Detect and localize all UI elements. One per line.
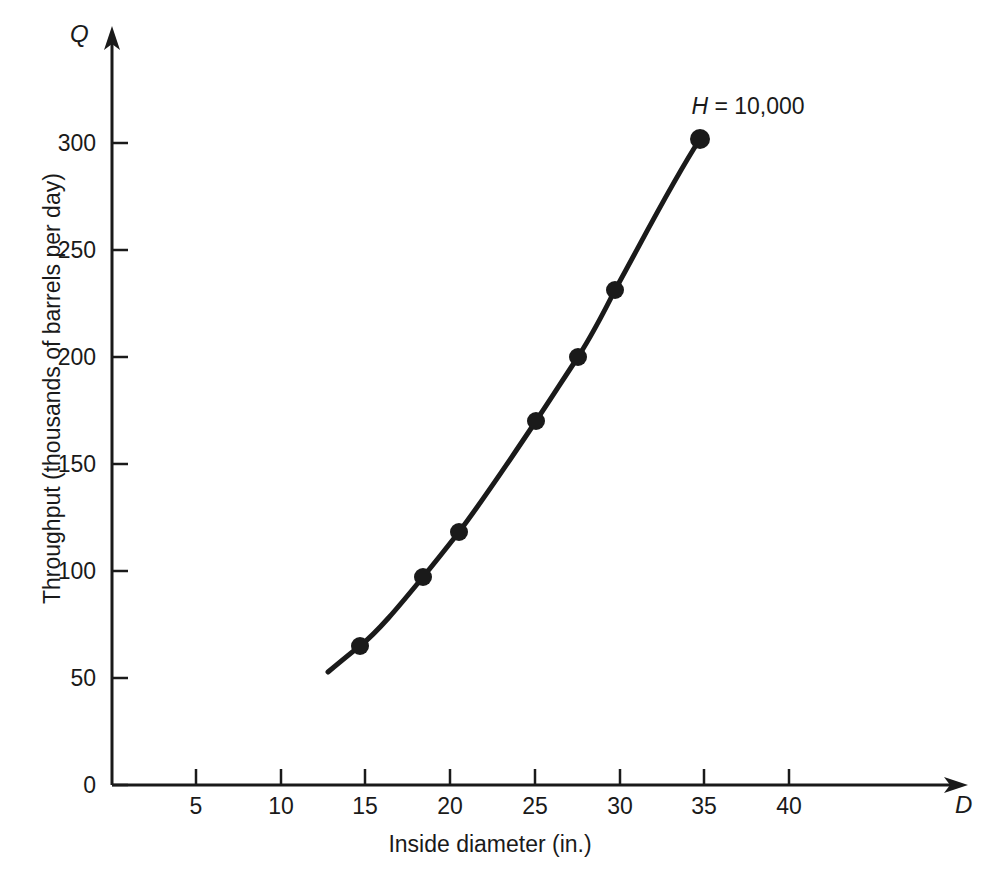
x-tick-label-10: 10	[268, 795, 294, 818]
x-axis-title: Inside diameter (in.)	[388, 833, 591, 856]
data-points	[351, 129, 710, 655]
x-tick-label-35: 35	[691, 795, 717, 818]
curve-annotation: H = 10,000	[691, 95, 804, 118]
y-tick-label-50: 50	[70, 667, 96, 690]
data-point	[351, 637, 369, 655]
annotation-value: 10,000	[734, 93, 804, 119]
data-curve	[328, 139, 700, 672]
annotation-equals: =	[708, 93, 734, 119]
data-point	[414, 568, 432, 586]
annotation-variable: H	[691, 93, 708, 119]
x-tick-label-30: 30	[607, 795, 633, 818]
data-point	[690, 129, 710, 149]
x-axis-variable-label: D	[955, 793, 972, 817]
data-point	[606, 281, 624, 299]
x-tick-label-40: 40	[776, 795, 802, 818]
y-axis-title: Throughput (thousands of barrels per day…	[41, 173, 64, 604]
x-axis	[112, 769, 968, 793]
chart-figure: Q D 0 50 100 150 200 250 300 5 10 15 20 …	[0, 0, 989, 869]
x-tick-label-15: 15	[352, 795, 378, 818]
x-tick-label-25: 25	[522, 795, 548, 818]
y-axis	[104, 26, 128, 785]
x-tick-label-20: 20	[437, 795, 463, 818]
y-tick-label-0: 0	[83, 774, 96, 797]
data-point	[450, 523, 468, 541]
plot-area	[0, 0, 989, 869]
y-tick-label-300: 300	[58, 132, 96, 155]
data-point	[527, 412, 545, 430]
data-point	[569, 348, 587, 366]
x-tick-label-5: 5	[190, 795, 203, 818]
y-axis-variable-label: Q	[70, 22, 89, 46]
